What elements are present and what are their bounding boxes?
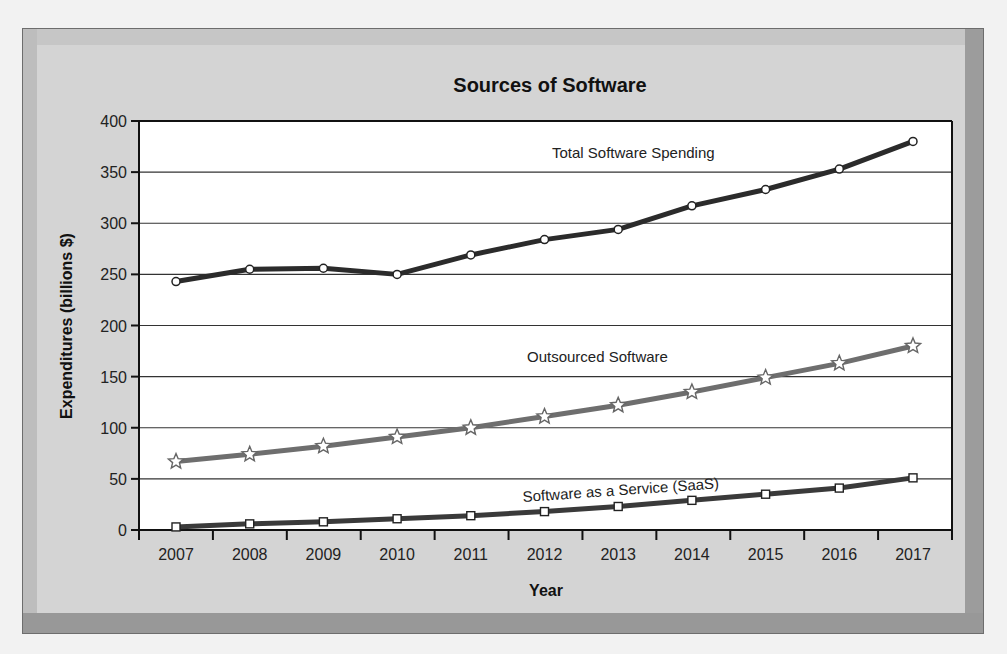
x-tick-label: 2011 (454, 546, 489, 563)
square-marker (467, 512, 475, 520)
y-tick-label: 300 (100, 215, 127, 232)
y-axis-ticks: 050100150200250300350400 (100, 113, 139, 539)
square-marker (172, 523, 180, 531)
circle-marker (319, 264, 327, 272)
y-tick-label: 0 (118, 522, 127, 539)
circle-marker (762, 186, 770, 194)
x-tick-label: 2013 (600, 546, 636, 563)
x-axis-ticks: 2007200820092010201120122013201420152016… (139, 530, 952, 563)
x-tick-label: 2017 (895, 546, 931, 563)
x-tick-label: 2008 (232, 546, 268, 563)
square-marker (688, 496, 696, 504)
x-tick-label: 2009 (306, 546, 342, 563)
circle-marker (393, 270, 401, 278)
series-label-outsourced: Outsourced Software (527, 348, 668, 365)
square-marker (909, 474, 917, 482)
circle-marker (688, 202, 696, 210)
circle-marker (246, 265, 254, 273)
y-tick-label: 50 (109, 471, 127, 488)
y-tick-label: 200 (100, 318, 127, 335)
x-axis-title: Year (529, 582, 563, 599)
x-tick-label: 2010 (379, 546, 415, 563)
x-tick-label: 2016 (822, 546, 858, 563)
circle-marker (909, 137, 917, 145)
x-tick-label: 2007 (158, 546, 194, 563)
series-label-total: Total Software Spending (552, 144, 715, 161)
square-marker (541, 508, 549, 516)
circle-marker (835, 165, 843, 173)
y-tick-label: 350 (100, 164, 127, 181)
square-marker (393, 515, 401, 523)
x-tick-label: 2015 (748, 546, 784, 563)
square-marker (246, 520, 254, 528)
circle-marker (541, 236, 549, 244)
x-tick-label: 2014 (674, 546, 710, 563)
circle-marker (467, 251, 475, 259)
circle-marker (614, 225, 622, 233)
y-tick-label: 150 (100, 369, 127, 386)
x-tick-label: 2012 (527, 546, 563, 563)
y-axis-title: Expenditures (billions $) (58, 233, 75, 419)
circle-marker (172, 278, 180, 286)
line-chart: Sources of Software 05010015020025030035… (0, 0, 1007, 654)
y-tick-label: 100 (100, 420, 127, 437)
y-tick-label: 400 (100, 113, 127, 130)
chart-title: Sources of Software (453, 74, 646, 96)
square-marker (835, 484, 843, 492)
square-marker (319, 518, 327, 526)
y-tick-label: 250 (100, 266, 127, 283)
square-marker (614, 502, 622, 510)
square-marker (762, 490, 770, 498)
